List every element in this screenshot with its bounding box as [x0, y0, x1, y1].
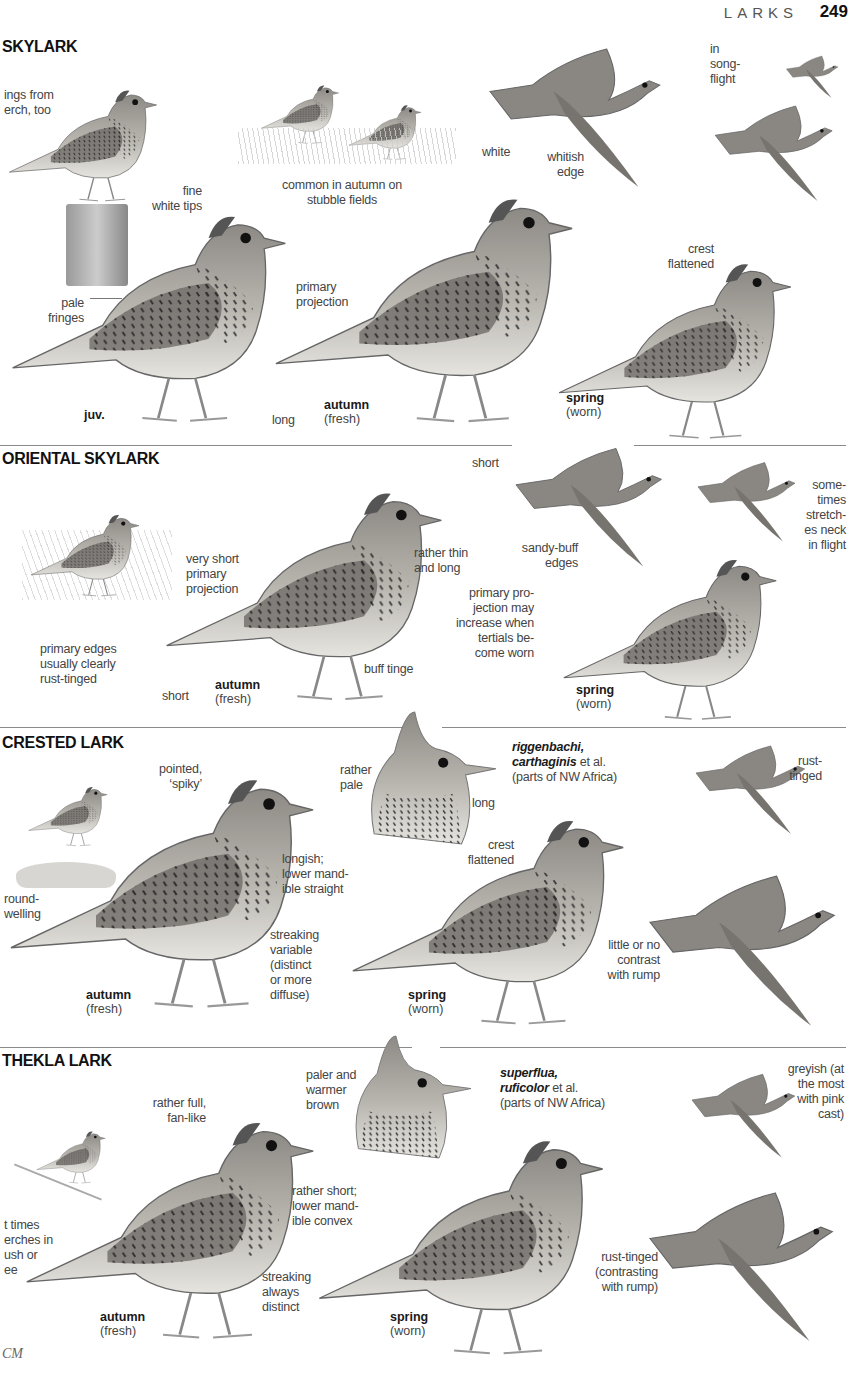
skylark-juv-illustration [10, 210, 288, 425]
age-label-oriental-autumn: autumn(fresh) [215, 678, 260, 706]
section-divider [442, 727, 846, 728]
label-in-song-flight: in song- flight [710, 42, 740, 87]
label-long-bill: long [472, 796, 495, 811]
page-number: 249 [820, 2, 848, 22]
stubble-grass-illustration [238, 128, 456, 164]
species-title-thekla-lark: THEKLA LARK [2, 1052, 112, 1070]
illustrator-initials: CM [2, 1346, 23, 1362]
oriental-skylark-neck-stretch-illustration [698, 460, 798, 544]
label-white: white [482, 145, 510, 160]
crested-lark-spring-illustration [340, 816, 636, 1026]
age-label-skylark-spring: spring(worn) [566, 391, 604, 419]
thekla-lark-autumn-illustration [24, 1094, 316, 1364]
label-rust-tinged-contrasting: rust-tinged (contrasting with rump) [580, 1250, 658, 1295]
label-longish-bill: longish; lower mand- ible straight [282, 852, 349, 897]
label-subspecies-crested: riggenbachi, carthaginis et al. (parts o… [512, 740, 617, 785]
label-rust-tinged-crested: rust- tinged [780, 754, 822, 784]
thekla-lark-spring-illustration [314, 1136, 608, 1356]
species-title-crested-lark: CRESTED LARK [2, 734, 124, 752]
species-title-skylark: SKYLARK [2, 38, 77, 56]
age-label-thekla-spring: spring(worn) [390, 1310, 428, 1338]
label-stretches-neck: some- times stretch- es neck in flight [790, 478, 846, 553]
label-subspecies-thekla: superflua, ruficolor et al. (parts of NW… [500, 1066, 605, 1111]
label-short-tail: short [162, 689, 189, 704]
crested-lark-flight-large-illustration [650, 876, 840, 1026]
age-label-skylark-autumn: autumn(fresh) [324, 398, 369, 426]
label-whitish-edge: whitish edge [530, 150, 584, 180]
label-primary-edges: primary edges usually clearly rust-tinge… [40, 642, 117, 687]
running-header-section: LARKS [724, 4, 798, 21]
species-title-oriental-skylark: ORIENTAL SKYLARK [2, 450, 159, 468]
label-rather-thin-long: rather thin and long [414, 546, 468, 576]
section-divider [0, 727, 412, 728]
age-label-skylark-juv: juv. [84, 408, 105, 422]
oriental-skylark-spring-illustration [520, 556, 820, 721]
section-divider [0, 445, 512, 446]
label-short-flight: short [472, 456, 499, 471]
thekla-lark-flight-large-illustration [650, 1192, 838, 1342]
skylark-songflight-small-illustration [782, 56, 844, 98]
label-long: long [272, 413, 295, 428]
label-streaking-variable: streaking variable (distinct or more dif… [270, 928, 319, 1003]
skylark-songflight-large-illustration [708, 106, 843, 201]
oriental-skylark-grass-illustration [30, 490, 140, 620]
age-label-thekla-autumn: autumn(fresh) [100, 1310, 145, 1338]
age-label-crested-spring: spring(worn) [408, 988, 446, 1016]
label-buff-tinge: buff tinge [364, 662, 413, 677]
age-label-oriental-spring: spring(worn) [576, 683, 614, 711]
section-divider [440, 1047, 846, 1048]
thekla-lark-flight-small-illustration [692, 1068, 798, 1164]
label-streaking-distinct: streaking always distinct [262, 1270, 311, 1315]
age-label-crested-autumn: autumn(fresh) [86, 988, 131, 1016]
